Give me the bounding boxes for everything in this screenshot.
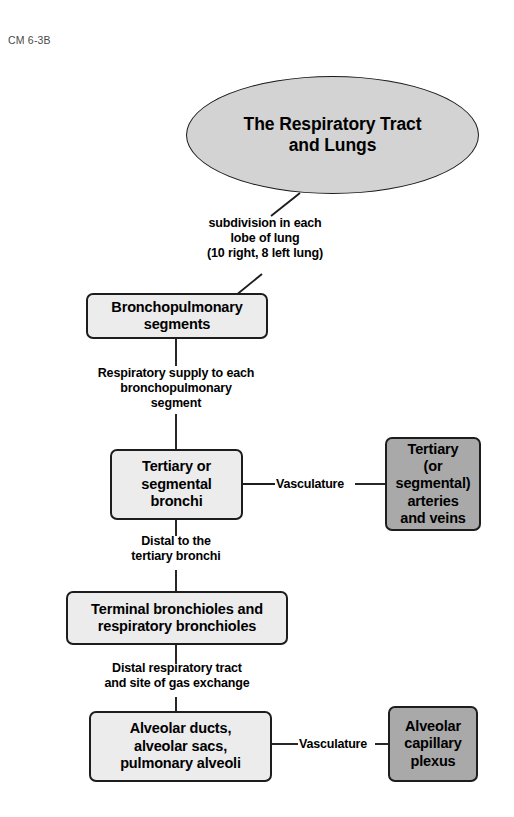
node-alveolar-ducts-line1: Alveolar ducts,	[120, 720, 241, 737]
node-alveolar-ducts-text: Alveolar ducts, alveolar sacs, pulmonary…	[120, 720, 241, 772]
node-terminal-bronchioles-line2: respiratory bronchioles	[91, 618, 263, 635]
node-title-ellipse: The Respiratory Tract and Lungs	[186, 76, 479, 194]
edge-label-distal-gas-exchange: Distal respiratory tract and site of gas…	[60, 661, 294, 691]
node-terminal-bronchioles: Terminal bronchioles and respiratory bro…	[66, 591, 288, 645]
node-alveolar-capillary-plexus: Alveolar capillary plexus	[388, 706, 478, 782]
node-bronchopulmonary-segments-line1: Bronchopulmonary	[111, 299, 242, 316]
edge-label-vasculature-upper: Vasculature	[275, 477, 345, 491]
node-tertiary-bronchi-line1: Tertiary or	[141, 458, 211, 475]
node-terminal-bronchioles-text: Terminal bronchioles and respiratory bro…	[91, 601, 263, 636]
node-title-line2: and Lungs	[244, 135, 422, 156]
node-tertiary-bronchi: Tertiary or segmental bronchi	[110, 449, 243, 520]
node-tertiary-arteries-veins-line4: and veins	[387, 510, 479, 527]
node-alveolar-capillary-plexus-line2: capillary	[404, 735, 462, 752]
connector-title-to-label	[271, 193, 300, 216]
node-tertiary-bronchi-line2: segmental	[141, 476, 211, 493]
edge-label-vasculature-lower: Vasculature	[298, 737, 368, 751]
node-bronchopulmonary-segments-line2: segments	[111, 316, 242, 333]
node-alveolar-ducts: Alveolar ducts, alveolar sacs, pulmonary…	[89, 711, 272, 782]
edge-label-subdivision: subdivision in each lobe of lung (10 rig…	[152, 216, 378, 260]
node-alveolar-capillary-plexus-line1: Alveolar	[404, 718, 462, 735]
node-tertiary-bronchi-line3: bronchi	[141, 493, 211, 510]
edge-label-respiratory-supply: Respiratory supply to each bronchopulmon…	[56, 366, 296, 410]
node-alveolar-capillary-plexus-line3: plexus	[404, 753, 462, 770]
edge-label-distal-tertiary: Distal to the tertiary bronchi	[86, 534, 266, 564]
node-title-line1: The Respiratory Tract	[244, 114, 422, 135]
node-tertiary-arteries-veins-line2: (or segmental)	[387, 458, 479, 493]
node-alveolar-ducts-line2: alveolar sacs,	[120, 738, 241, 755]
node-tertiary-arteries-veins: Tertiary (or segmental) arteries and vei…	[385, 437, 481, 531]
node-tertiary-arteries-veins-line1: Tertiary	[387, 441, 479, 458]
node-alveolar-capillary-plexus-text: Alveolar capillary plexus	[404, 718, 462, 770]
node-tertiary-bronchi-text: Tertiary or segmental bronchi	[141, 458, 211, 510]
node-tertiary-arteries-veins-text: Tertiary (or segmental) arteries and vei…	[387, 441, 479, 528]
node-alveolar-ducts-line3: pulmonary alveoli	[120, 755, 241, 772]
node-bronchopulmonary-segments: Bronchopulmonary segments	[86, 293, 268, 339]
node-bronchopulmonary-segments-text: Bronchopulmonary segments	[111, 299, 242, 334]
diagram-page: CM 6-3B The Respiratory Tract and Lungs …	[0, 0, 514, 817]
figure-code: CM 6-3B	[8, 34, 51, 46]
node-tertiary-arteries-veins-line3: arteries	[387, 493, 479, 510]
node-terminal-bronchioles-line1: Terminal bronchioles and	[91, 601, 263, 618]
node-title-text: The Respiratory Tract and Lungs	[244, 114, 422, 157]
